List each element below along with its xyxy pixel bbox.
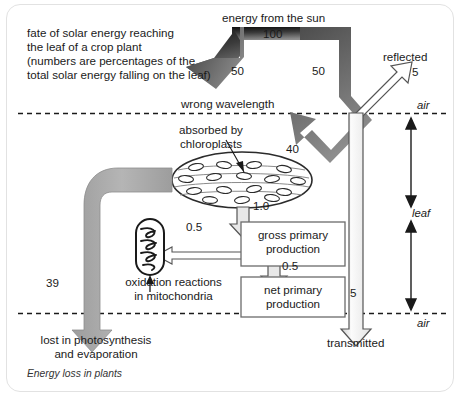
caption-line-1: fate of solar energy reaching xyxy=(27,26,174,39)
caption-line-2: the leaf of a crop plant xyxy=(27,40,142,53)
caption-line-3: (numbers are percentages of the xyxy=(27,54,195,67)
absorbed-line-1: absorbed by xyxy=(179,123,243,136)
npp-line-2: production xyxy=(266,297,320,310)
oxidation-reactions-label: oxidation reactions in mitochondria xyxy=(106,275,241,303)
lost-line-2: and evaporation xyxy=(54,347,137,360)
absorbed-by-chloroplasts-label: absorbed by chloroplasts xyxy=(153,123,269,151)
reflected-arrow xyxy=(355,62,412,119)
gross-primary-production-label: gross primary production xyxy=(241,228,345,255)
value-transmitted: 5 xyxy=(350,286,356,300)
energy-from-sun-label: energy from the sun xyxy=(222,11,325,25)
lost-line-1: lost in photosynthesis xyxy=(41,333,152,346)
leaf-label: leaf xyxy=(412,207,430,221)
npp-line-1: net primary xyxy=(264,283,322,296)
figure-container: fate of solar energy reaching the leaf o… xyxy=(0,0,467,409)
oxidation-line-1: oxidation reactions xyxy=(125,275,222,288)
value-respiration: 0.5 xyxy=(186,220,202,234)
air-bottom-label: air xyxy=(417,317,430,331)
value-gpp: 1.0 xyxy=(253,199,269,213)
value-absorbed-chloroplasts: 40 xyxy=(286,142,299,156)
net-primary-production-label: net primary production xyxy=(241,283,345,310)
gpp-line-2: production xyxy=(266,242,320,255)
value-wrong-wavelength: 50 xyxy=(231,64,244,78)
absorbed-line-2: chloroplasts xyxy=(180,137,242,150)
figure-footer: Energy loss in plants xyxy=(27,368,122,381)
value-reflected: 5 xyxy=(412,65,418,79)
mitochondrion-icon xyxy=(136,219,164,275)
transmitted-label: transmitted xyxy=(327,336,384,350)
air-top-label: air xyxy=(417,99,430,113)
gpp-line-1: gross primary xyxy=(258,228,328,241)
respiration-arrow xyxy=(156,243,247,264)
value-lost-energy: 39 xyxy=(46,276,59,290)
reflected-label: reflected xyxy=(383,50,427,64)
figure-caption: fate of solar energy reaching the leaf o… xyxy=(27,26,211,83)
oxidation-line-2: in mitochondria xyxy=(134,289,213,302)
value-total-incoming: 100 xyxy=(263,27,282,41)
lost-energy-label: lost in photosynthesis and evaporation xyxy=(18,333,174,361)
value-npp: 0.5 xyxy=(282,259,298,273)
caption-line-4: total solar energy falling on the leaf) xyxy=(27,68,211,81)
value-absorbed-branch: 50 xyxy=(312,64,325,78)
wrong-wavelength-label: wrong wavelength xyxy=(181,97,274,111)
